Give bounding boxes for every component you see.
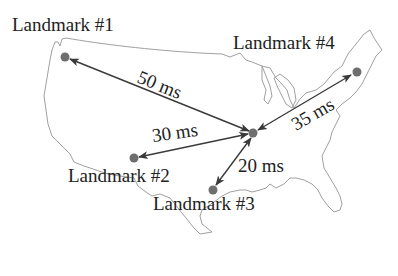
us-map-diagram: Landmark #1 Landmark #2 Landmark #3 Land… [0,0,398,276]
latency-label-landmark-3: 20 ms [238,155,284,176]
landmark-4-label: Landmark #4 [233,32,335,53]
landmark-2-dot [130,154,139,163]
latency-label-landmark-4: 35 ms [288,93,338,134]
landmark-4-dot [353,68,362,77]
latency-label-landmark-2: 30 ms [151,119,199,146]
landmark-1-label: Landmark #1 [12,14,114,35]
target-dot [249,129,258,138]
geolocation-diagram: Landmark #1 Landmark #2 Landmark #3 Land… [0,0,398,276]
landmark-3-label: Landmark #3 [153,193,255,214]
latency-label-landmark-1: 50 ms [135,66,185,103]
landmark-1-dot [61,53,70,62]
landmark-2-label: Landmark #2 [68,165,170,186]
